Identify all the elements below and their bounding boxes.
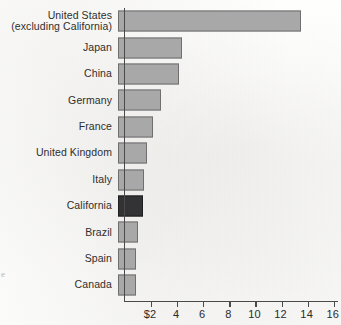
bar (118, 248, 136, 269)
x-axis-tick-label: 6 (199, 308, 205, 320)
category-label: Brazil (0, 227, 118, 239)
bar (118, 275, 136, 296)
x-axis-tick-label: $2 (144, 308, 157, 320)
bar (118, 90, 161, 111)
x-axis-tick-label: 14 (300, 308, 313, 320)
bar-row: Italy (0, 166, 341, 192)
horizontal-bar-chart: e United States (excluding California)Ja… (0, 0, 341, 325)
bar-track (118, 272, 341, 298)
bar-row: China (0, 61, 341, 87)
category-label: Germany (0, 95, 118, 107)
bar-row: Germany (0, 87, 341, 113)
category-label: France (0, 121, 118, 133)
bar-track (118, 193, 341, 219)
bar-row: Canada (0, 272, 341, 298)
x-axis-tick-label: 16 (326, 308, 339, 320)
category-label: Canada (0, 279, 118, 291)
bar-track (118, 246, 341, 272)
bar-row: Brazil (0, 219, 341, 245)
category-label: Spain (0, 253, 118, 265)
bar-track (118, 61, 341, 87)
category-label: California (0, 200, 118, 212)
bar-track (118, 140, 341, 166)
x-axis-tick (151, 301, 152, 307)
bar-row: United Kingdom (0, 140, 341, 166)
bar-track (118, 166, 341, 192)
x-axis-tick (334, 301, 335, 307)
x-axis-tick (177, 301, 178, 307)
category-label: United Kingdom (0, 147, 118, 159)
bar-row: California (0, 193, 341, 219)
bar-row: Japan (0, 34, 341, 60)
bar (118, 11, 301, 32)
x-axis-tick-label: 12 (274, 308, 287, 320)
bar (118, 37, 182, 58)
x-axis-tick (308, 301, 309, 307)
bar-track (118, 114, 341, 140)
bar (118, 143, 147, 164)
category-label: China (0, 68, 118, 80)
x-axis-tick-label: 10 (248, 308, 261, 320)
bar (118, 63, 179, 84)
bar-track (118, 87, 341, 113)
bar-track (118, 34, 341, 60)
bar-row: United States (excluding California) (0, 8, 341, 34)
bar-track (118, 219, 341, 245)
bar-row: France (0, 114, 341, 140)
x-axis-tick-label: 4 (173, 308, 179, 320)
x-axis-tick (282, 301, 283, 307)
bar (118, 222, 138, 243)
x-axis-tick (203, 301, 204, 307)
category-label: United States (excluding California) (0, 10, 118, 33)
x-axis-tick-label: 8 (225, 308, 231, 320)
x-axis-tick (229, 301, 230, 307)
bar (118, 169, 144, 190)
bar-rows: United States (excluding California)Japa… (0, 8, 341, 298)
bar-row: Spain (0, 246, 341, 272)
bar (118, 116, 153, 137)
bar (118, 195, 143, 216)
x-axis-tick (255, 301, 256, 307)
category-label: Italy (0, 174, 118, 186)
bar-track (118, 8, 341, 34)
category-label: Japan (0, 42, 118, 54)
